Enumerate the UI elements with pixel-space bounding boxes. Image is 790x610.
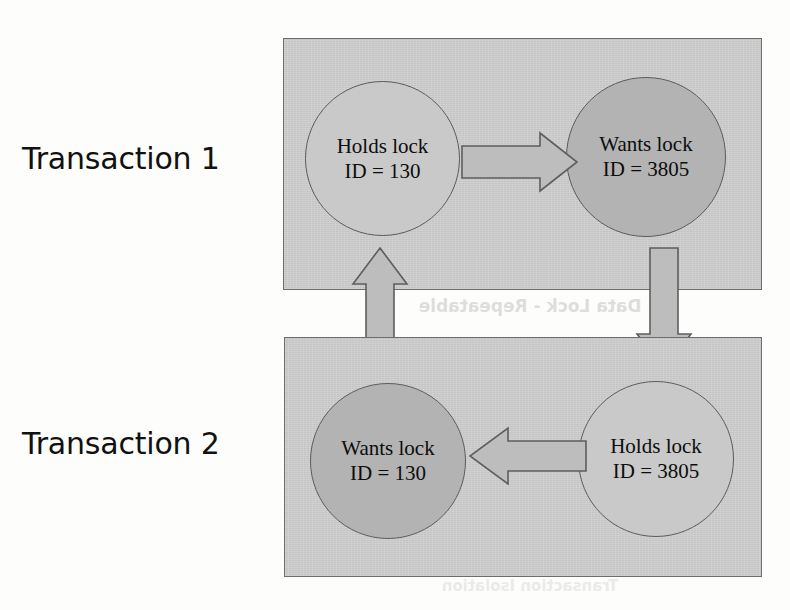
arrow-right-icon: [460, 130, 580, 194]
lock-state-label: Holds lock: [337, 134, 429, 159]
lock-id-label: ID = 130: [350, 461, 426, 486]
lock-id-label: ID = 3805: [603, 157, 690, 182]
lock-state-label: Wants lock: [341, 436, 434, 461]
arrow-left-icon: [466, 425, 588, 487]
lock-state-label: Wants lock: [599, 132, 692, 157]
transaction-2-holds-lock-node: Holds lock ID = 3805: [578, 381, 734, 537]
transaction-1-label: Transaction 1: [22, 141, 277, 176]
scan-bleed-through-text-secondary: Transaction Isolation: [330, 577, 730, 595]
lock-state-label: Holds lock: [610, 434, 702, 459]
lock-id-label: ID = 3805: [613, 459, 700, 484]
transaction-2-wants-lock-node: Wants lock ID = 130: [310, 383, 466, 539]
transaction-2-label: Transaction 2: [22, 426, 277, 461]
lock-id-label: ID = 130: [344, 159, 420, 184]
diagram-canvas: Transaction 1 Holds lock ID = 130 Wants …: [0, 0, 790, 610]
transaction-1-holds-lock-node: Holds lock ID = 130: [305, 81, 460, 236]
transaction-1-wants-lock-node: Wants lock ID = 3805: [566, 77, 726, 237]
